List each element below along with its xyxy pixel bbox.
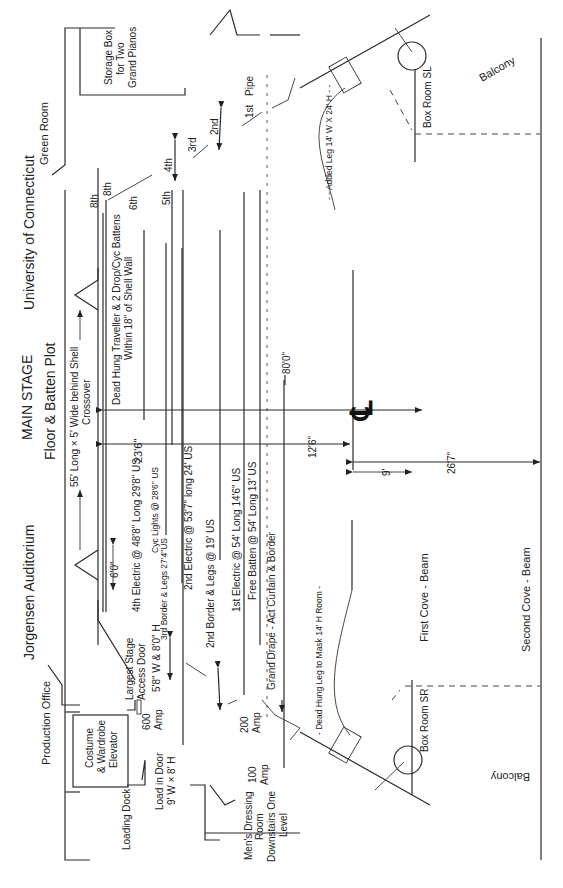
fourth-electric-label: 4th Electric @ 48'8" Long 29'8" US: [131, 458, 142, 612]
crossover-label: Crossover: [81, 379, 92, 425]
access-door-label: Access Door: [136, 643, 147, 700]
balcony-sl-label: Balcony: [477, 54, 517, 84]
dim-26-7: 26'7": [446, 451, 457, 474]
storage-box-label: Grand Pianos: [127, 27, 138, 88]
pipe-label: Pipe: [244, 76, 255, 96]
access-door-label: Largest Stage: [124, 637, 135, 700]
grand-drape-label: Grand Drape - Act Curtain & Border: [266, 531, 277, 690]
mens-dressing-label: Level: [278, 813, 289, 837]
storage-box-label: Storage Box: [103, 30, 114, 85]
dim-23-6: 23'6": [132, 439, 144, 463]
amp-100-label: 100: [247, 766, 258, 783]
amp-200-label: 200: [239, 716, 250, 733]
plot-title: Floor & Batten Plot: [42, 342, 58, 460]
storage-box-label: for Two: [115, 42, 126, 75]
first-electric-label: 1st Electric @ 54' Long 14'6" US: [231, 467, 242, 612]
dim-6-0: 6'0": [109, 561, 120, 578]
mens-dressing-label: Downstairs One: [266, 790, 277, 862]
load-door-label: Load in Door: [154, 752, 165, 810]
amp-600-label: Amp: [153, 709, 164, 730]
pipe-3rd-label: 3rd: [187, 138, 198, 152]
box-room-sl-label: Box Room SL: [422, 66, 433, 128]
stage-title: MAIN STAGE: [19, 355, 35, 440]
balcony-sr-label: Balcony: [490, 771, 530, 783]
added-leg-label: - - Added Leg 14' W X 24' H - -: [324, 85, 334, 200]
green-room-label: Green Room: [38, 102, 50, 165]
pipe-8th-label: 8th: [102, 182, 113, 196]
free-batten-label: Free Batten @ 54' Long 13' US: [247, 461, 258, 600]
pipe-1st-label: 1st: [244, 104, 255, 118]
elevator-label: Costume: [84, 728, 95, 768]
box-room-sr-label: Box Room SR: [419, 689, 430, 752]
first-cove-label: First Cove - Beam: [418, 553, 430, 642]
mens-dressing-label: Men's Dressing: [243, 791, 254, 860]
elevator-label: & Wardrobe: [96, 720, 107, 773]
production-office-label: Production Office: [40, 681, 52, 765]
second-border-label: 2nd Border & Legs @ 19' US: [205, 519, 216, 648]
amp-200-label: Amp: [251, 712, 262, 733]
venue-title: Jorgensen Auditorium: [21, 525, 37, 660]
stage-right-house: [262, 520, 540, 805]
mens-dressing-label: Room: [254, 813, 265, 840]
crossover-label: 55' Long × 5' Wide behind Shell: [69, 347, 80, 487]
elevator-label: Elevator: [108, 731, 119, 768]
load-door-label: 9' W × 8' H: [166, 756, 177, 805]
pipe-8th-label: 8th: [89, 194, 100, 208]
dim-80-0: 80'0": [281, 351, 292, 374]
pipe-2nd-label: 2nd: [209, 118, 220, 135]
dim-12-6: 12'6": [307, 435, 318, 458]
loading-dock-label: Loading Dock: [121, 788, 132, 850]
third-border-label: 3rd Border & Legs 27'4"US: [159, 538, 169, 640]
dim-9: 9': [381, 468, 392, 476]
dead-hung-traveller-label: Within 18" of Shell Wall: [123, 257, 134, 360]
amp-600-label: 600: [141, 713, 152, 730]
amp-100-label: Amp: [259, 764, 270, 785]
battens: [75, 75, 284, 768]
pipe-5th-label: 5th: [161, 191, 172, 205]
pipe-4th-label: 4th: [163, 158, 174, 172]
centerline-icon: ℄: [345, 400, 378, 422]
university-title: University of Connecticut: [21, 155, 37, 310]
pipe-markers: [80, 108, 540, 712]
pipe-6th-label: 6th: [128, 196, 139, 210]
second-electric-label: 2nd Electric @ 53'7" long 24' US: [183, 445, 194, 590]
second-cove-label: Second Cove - Beam: [520, 547, 532, 652]
dead-hung-leg-label: - Dead Hung Leg to Mask 14' H Room -: [314, 586, 324, 735]
floor-batten-plot-drawing: Jorgensen Auditorium MAIN STAGE Floor & …: [0, 0, 563, 888]
dead-hung-traveller-label: Dead Hung Traveller & 2 Drop/Cyc Battens: [111, 214, 122, 405]
